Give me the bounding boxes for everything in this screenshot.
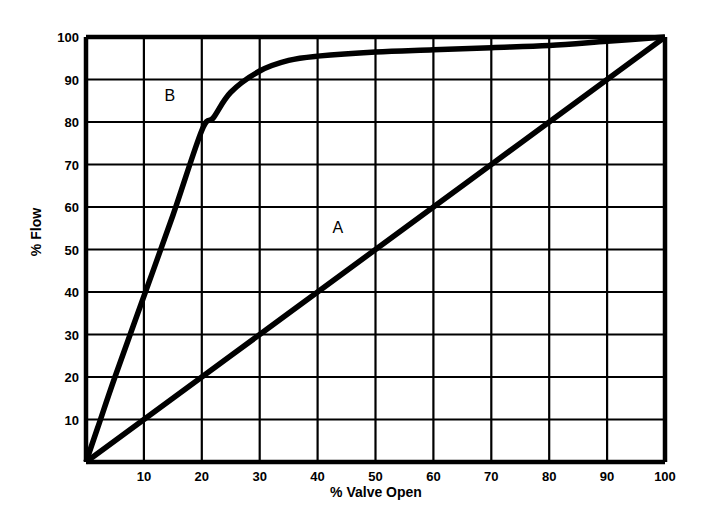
chart-container: 102030405060708090100 102030405060708090… — [0, 0, 702, 524]
x-tick-label: 50 — [368, 469, 382, 484]
x-tick-label: 30 — [252, 469, 266, 484]
y-tick-label: 20 — [65, 370, 79, 385]
x-tick-label: 10 — [137, 469, 151, 484]
x-tick-label: 80 — [542, 469, 556, 484]
x-axis-title: % Valve Open — [330, 484, 422, 500]
x-tick-label: 20 — [195, 469, 209, 484]
y-axis-title: % Flow — [28, 208, 44, 256]
x-tick-label: 40 — [310, 469, 324, 484]
y-tick-label: 90 — [65, 73, 79, 88]
y-tick-label: 100 — [57, 30, 79, 45]
y-tick-label: 80 — [65, 115, 79, 130]
x-tick-label: 90 — [600, 469, 614, 484]
y-tick-label: 10 — [65, 413, 79, 428]
annotation-label-A: A — [333, 219, 344, 236]
valve-flow-chart: 102030405060708090100 102030405060708090… — [0, 0, 702, 524]
y-tick-label: 30 — [65, 328, 79, 343]
y-tick-label: 70 — [65, 158, 79, 173]
x-tick-label: 100 — [654, 469, 676, 484]
x-tick-label: 60 — [426, 469, 440, 484]
y-tick-label: 40 — [65, 285, 79, 300]
y-tick-label: 50 — [65, 243, 79, 258]
x-tick-label: 70 — [484, 469, 498, 484]
y-tick-label: 60 — [65, 200, 79, 215]
annotation-label-B: B — [165, 87, 176, 104]
